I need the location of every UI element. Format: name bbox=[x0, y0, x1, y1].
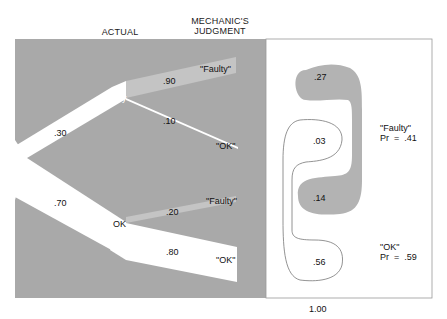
label-ok-says-ok: "OK" bbox=[216, 255, 235, 265]
label-ok-says-faulty: "Faulty" bbox=[206, 196, 237, 206]
node-faulty: Faulty bbox=[102, 93, 127, 103]
prob-faulty-says-ok: .10 bbox=[163, 116, 176, 126]
prob-actual-faulty: .30 bbox=[54, 128, 67, 138]
probability-tree-diagram: .30 .70 Faulty OK .90 "Faulty" .10 "OK" … bbox=[0, 0, 447, 319]
total-faulty-label: "Faulty" bbox=[380, 123, 411, 133]
outcome-faulty-ok: .03 bbox=[313, 136, 326, 146]
prob-ok-says-faulty: .20 bbox=[166, 207, 179, 217]
prob-ok-says-ok: .80 bbox=[166, 247, 179, 257]
node-ok: OK bbox=[113, 219, 126, 229]
outcome-ok-faulty: .14 bbox=[313, 193, 326, 203]
prob-actual-ok: .70 bbox=[54, 198, 67, 208]
label-faulty-says-faulty: "Faulty" bbox=[200, 64, 231, 74]
total-ok-label: "OK" bbox=[380, 242, 399, 252]
outcome-ok-ok: .56 bbox=[313, 257, 326, 267]
total-faulty-pr: Pr = .41 bbox=[380, 133, 417, 143]
prob-faulty-says-faulty: .90 bbox=[163, 76, 176, 86]
outcome-faulty-faulty: .27 bbox=[314, 72, 327, 82]
grand-total: 1.00 bbox=[309, 304, 327, 314]
label-faulty-says-ok: "OK" bbox=[216, 141, 235, 151]
total-ok-pr: Pr = .59 bbox=[380, 252, 417, 262]
